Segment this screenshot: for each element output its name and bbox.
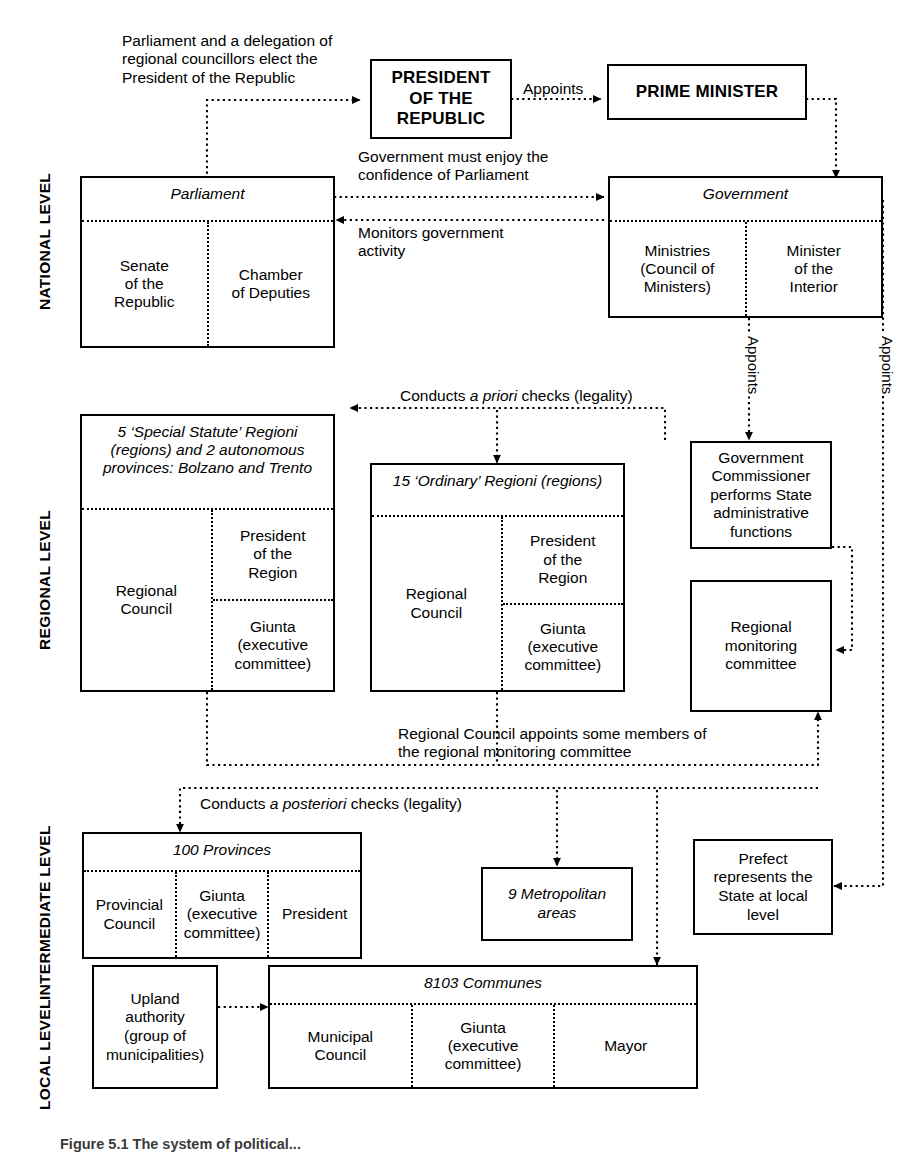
parliament-cell-senate[interactable]: Senate of the Republic bbox=[82, 222, 209, 346]
special-regions-cell-president[interactable]: President of the Region bbox=[213, 510, 334, 601]
note-appoints-pm: Appoints bbox=[523, 80, 583, 98]
provinces-organs: Provincial Council Giunta (executive com… bbox=[84, 872, 360, 957]
provinces-cell-council[interactable]: Provincial Council bbox=[84, 872, 177, 957]
communes-cell-municipal-council[interactable]: Municipal Council bbox=[270, 1005, 413, 1087]
note-monitors-government-activity: Monitors government activity bbox=[358, 224, 504, 261]
box-prime-minister[interactable]: PRIME MINISTER bbox=[607, 64, 807, 120]
provinces-cell-giunta[interactable]: Giunta (executive committee) bbox=[177, 872, 270, 957]
box-communes[interactable]: 8103 Communes Municipal Council Giunta (… bbox=[268, 965, 698, 1089]
box-regional-monitoring-committee[interactable]: Regional monitoring committee bbox=[690, 580, 832, 712]
box-special-statute-regions[interactable]: 5 ‘Special Statute’ Regioni (regions) an… bbox=[80, 414, 335, 692]
government-cell-interior-minister[interactable]: Minister of the Interior bbox=[747, 222, 882, 316]
level-label-regional: REGIONAL LEVEL bbox=[36, 510, 54, 650]
box-president-of-the-republic[interactable]: PRESIDENT OF THE REPUBLIC bbox=[370, 59, 512, 139]
wire-commissioner-to-regional-monitoring bbox=[832, 547, 852, 650]
special-regions-cell-giunta[interactable]: Giunta (executive committee) bbox=[213, 601, 334, 690]
note-appoints-prefect: Appoints bbox=[879, 334, 896, 396]
ordinary-regions-cell-council[interactable]: Regional Council bbox=[372, 517, 503, 690]
special-regions-title: 5 ‘Special Statute’ Regioni (regions) an… bbox=[82, 416, 333, 510]
a-priori-pre: Conducts bbox=[400, 387, 470, 404]
parliament-chambers: Senate of the Republic Chamber of Deputi… bbox=[82, 222, 333, 346]
communes-title: 8103 Communes bbox=[270, 967, 696, 1005]
a-posteriori-pre: Conducts bbox=[200, 795, 270, 812]
wire-parliament-elects-president bbox=[207, 100, 360, 185]
government-title: Government bbox=[610, 178, 881, 222]
note-regional-council-appoints: Regional Council appoints some members o… bbox=[398, 725, 706, 762]
a-priori-emphasis: a priori bbox=[470, 387, 517, 404]
wire-pm-to-government bbox=[806, 99, 836, 178]
special-regions-organs: Regional Council President of the Region… bbox=[82, 510, 333, 690]
parliament-cell-chamber[interactable]: Chamber of Deputies bbox=[209, 222, 334, 346]
provinces-cell-president[interactable]: President bbox=[269, 872, 360, 957]
ordinary-regions-cell-president[interactable]: President of the Region bbox=[503, 517, 624, 605]
communes-cell-mayor[interactable]: Mayor bbox=[555, 1005, 696, 1087]
ordinary-regions-title: 15 ‘Ordinary’ Regioni (regions) bbox=[372, 465, 623, 517]
ordinary-regions-organs: Regional Council President of the Region… bbox=[372, 517, 623, 690]
special-regions-right-stack: President of the Region Giunta (executiv… bbox=[213, 510, 334, 690]
level-label-intermediate: INTERMEDIATE LEVEL bbox=[36, 825, 54, 1000]
box-government[interactable]: Government Ministries (Council of Minist… bbox=[608, 176, 883, 318]
note-appoints-commissioner: Appoints bbox=[745, 334, 762, 396]
level-label-national: NATIONAL LEVEL bbox=[36, 173, 54, 310]
provinces-title: 100 Provinces bbox=[84, 834, 360, 872]
note-confidence-of-parliament: Government must enjoy the confidence of … bbox=[358, 148, 548, 185]
box-provinces[interactable]: 100 Provinces Provincial Council Giunta … bbox=[82, 832, 362, 959]
communes-organs: Municipal Council Giunta (executive comm… bbox=[270, 1005, 696, 1087]
note-elect-president: Parliament and a delegation of regional … bbox=[122, 32, 332, 87]
communes-cell-giunta[interactable]: Giunta (executive committee) bbox=[413, 1005, 556, 1087]
diagram-canvas: NATIONAL LEVEL REGIONAL LEVEL INTERMEDIA… bbox=[0, 0, 913, 1154]
box-prefect[interactable]: Prefect represents the State at local le… bbox=[693, 839, 833, 935]
a-posteriori-emphasis: a posteriori bbox=[270, 795, 347, 812]
box-ordinary-regions[interactable]: 15 ‘Ordinary’ Regioni (regions) Regional… bbox=[370, 463, 625, 692]
box-parliament[interactable]: Parliament Senate of the Republic Chambe… bbox=[80, 176, 335, 348]
note-a-priori-checks: Conducts a priori checks (legality) bbox=[400, 387, 633, 405]
special-regions-cell-council[interactable]: Regional Council bbox=[82, 510, 213, 690]
box-upland-authority[interactable]: Upland authority (group of municipalitie… bbox=[92, 965, 218, 1089]
a-priori-post: checks (legality) bbox=[517, 387, 632, 404]
government-parts: Ministries (Council of Ministers) Minist… bbox=[610, 222, 881, 316]
parliament-title: Parliament bbox=[82, 178, 333, 222]
ordinary-regions-right-stack: President of the Region Giunta (executiv… bbox=[503, 517, 624, 690]
ordinary-regions-cell-giunta[interactable]: Giunta (executive committee) bbox=[503, 605, 624, 691]
level-label-local: LOCAL LEVEL bbox=[36, 999, 54, 1110]
figure-caption: Figure 5.1 The system of political... bbox=[60, 1136, 301, 1152]
note-a-posteriori-checks: Conducts a posteriori checks (legality) bbox=[200, 795, 462, 813]
box-government-commissioner[interactable]: Government Commissioner performs State a… bbox=[690, 441, 832, 549]
government-cell-ministries[interactable]: Ministries (Council of Ministers) bbox=[610, 222, 747, 316]
wire-a-priori-to-special-regions bbox=[350, 408, 665, 440]
box-metropolitan-areas[interactable]: 9 Metropolitan areas bbox=[481, 867, 633, 941]
a-posteriori-post: checks (legality) bbox=[346, 795, 461, 812]
